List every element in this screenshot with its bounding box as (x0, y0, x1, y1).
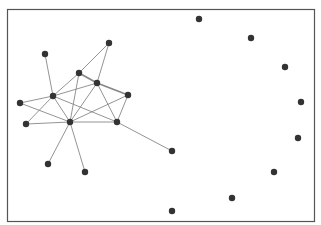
node-L (45, 161, 51, 167)
node-N (196, 16, 202, 22)
node-J (114, 119, 120, 125)
node-Q (298, 99, 304, 105)
node-K (169, 148, 175, 154)
node-S (271, 169, 277, 175)
node-H (67, 119, 73, 125)
node-C (94, 80, 100, 86)
node-D (42, 51, 48, 57)
node-M (82, 169, 88, 175)
node-U (169, 208, 175, 214)
node-T (229, 195, 235, 201)
network-graph-canvas (0, 0, 321, 225)
node-B (76, 70, 82, 76)
node-R (295, 135, 301, 141)
node-G (17, 100, 23, 106)
node-I (23, 121, 29, 127)
node-O (248, 35, 254, 41)
node-A (106, 40, 112, 46)
node-F (125, 92, 131, 98)
node-E (50, 93, 56, 99)
node-P (282, 64, 288, 70)
